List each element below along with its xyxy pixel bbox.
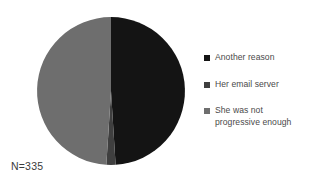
chart-legend: Another reason Her email server She was … (204, 52, 307, 143)
pie-slices (37, 17, 185, 165)
pie-slice-she-was-not-progressive-enough[interactable] (37, 17, 111, 165)
legend-item-her-email-server[interactable]: Her email server (204, 79, 307, 91)
legend-swatch-icon (204, 108, 210, 114)
legend-item-she-was-not-progressive-enough[interactable]: She was not progressive enough (204, 105, 307, 128)
legend-item-label: Another reason (215, 52, 274, 64)
legend-item-label: Her email server (215, 79, 279, 91)
pie-chart-figure: N=335 Another reason Her email server Sh… (0, 0, 309, 187)
legend-item-label: She was not progressive enough (215, 105, 307, 128)
legend-swatch-icon (204, 82, 210, 88)
legend-item-another-reason[interactable]: Another reason (204, 52, 307, 64)
legend-swatch-icon (204, 55, 210, 61)
pie-slice-another-reason[interactable] (111, 17, 185, 165)
sample-size-label: N=335 (11, 160, 43, 172)
